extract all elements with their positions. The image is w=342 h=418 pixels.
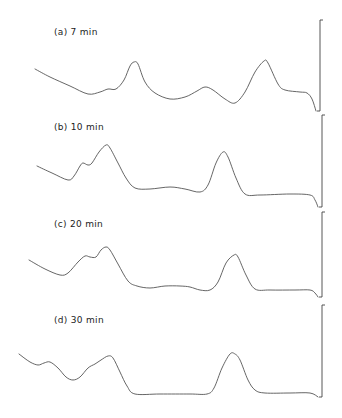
traces-canvas (0, 0, 342, 418)
scale-bracket (319, 115, 325, 207)
scale-bracket (319, 305, 325, 397)
scale-bracket (319, 212, 325, 297)
trace-panel-d (19, 305, 325, 397)
trace-panel-a (35, 20, 323, 111)
trace-panel-b (37, 115, 325, 207)
trace-panel-c (29, 212, 325, 297)
trace-line (35, 60, 316, 111)
trace-line (29, 247, 318, 297)
trace-line (37, 145, 318, 207)
trace-line (19, 353, 318, 397)
chromatogram-figure: (a) 7 min (b) 10 min (c) 20 min (d) 30 m… (0, 0, 342, 418)
scale-bracket (317, 20, 323, 111)
